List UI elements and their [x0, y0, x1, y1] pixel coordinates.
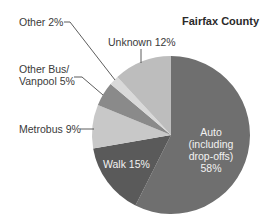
label-walk: Walk 15%	[103, 158, 150, 170]
label-auto-line2: (including	[183, 138, 239, 150]
label-auto: Auto (including drop-offs) 58%	[183, 126, 239, 174]
label-other: Other 2%	[19, 16, 63, 28]
leader-otherbus	[74, 77, 103, 95]
label-auto-line4: 58%	[183, 162, 239, 174]
leader-other	[64, 22, 115, 80]
chart-title: Fairfax County	[182, 15, 259, 27]
label-unknown: Unknown 12%	[108, 36, 176, 48]
label-otherbus-1: Other Bus/	[19, 63, 69, 75]
pie-chart	[0, 0, 264, 224]
label-metrobus: Metrobus 9%	[19, 123, 81, 135]
label-otherbus-2: Vanpool 5%	[19, 75, 75, 87]
label-auto-line3: drop-offs)	[183, 150, 239, 162]
label-auto-line1: Auto	[183, 126, 239, 138]
